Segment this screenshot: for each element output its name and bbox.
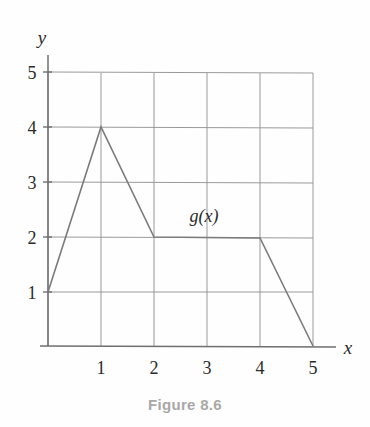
figure-container: y x 5 4 3 2 1 1 2 3 4 5 g(x) Figure 8.6 (0, 0, 370, 427)
curve-label-gx: g(x) (190, 206, 219, 227)
y-tick-label-5: 5 (28, 63, 37, 83)
x-tick-label-3: 3 (203, 358, 212, 378)
x-axis-line (40, 346, 336, 347)
gridline-y-3 (48, 182, 313, 183)
graph-plot: y x 5 4 3 2 1 1 2 3 4 5 g(x) (0, 0, 370, 427)
figure-caption: Figure 8.6 (0, 396, 370, 413)
x-tick-label-4: 4 (256, 358, 265, 378)
gridline-y-4 (48, 127, 313, 128)
x-tick-label-2: 2 (150, 358, 159, 378)
y-axis-label: y (36, 27, 47, 48)
x-tick-label-5: 5 (309, 358, 318, 378)
y-tick-label-4: 4 (28, 118, 37, 138)
grid-lines (48, 72, 313, 346)
x-tick-label-1: 1 (97, 358, 106, 378)
y-tick-label-1: 1 (28, 283, 37, 303)
gridline-y-5 (48, 72, 313, 73)
y-tick-label-2: 2 (28, 228, 37, 248)
function-curve-g (48, 127, 313, 346)
y-tick-label-3: 3 (28, 173, 37, 193)
x-axis-label: x (343, 337, 353, 358)
